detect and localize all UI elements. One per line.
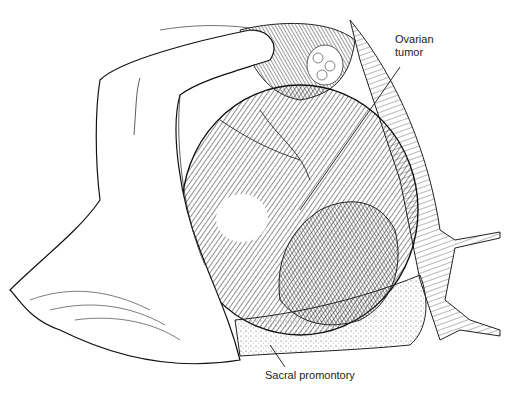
tumor-highlight — [216, 194, 268, 242]
label-ovarian-line2: tumor — [395, 46, 434, 59]
surgical-illustration — [0, 0, 518, 394]
label-ovarian-line1: Ovarian — [395, 33, 434, 46]
label-ovarian-tumor: Ovarian tumor — [395, 33, 434, 59]
label-sacral-promontory: Sacral promontory — [265, 369, 355, 382]
